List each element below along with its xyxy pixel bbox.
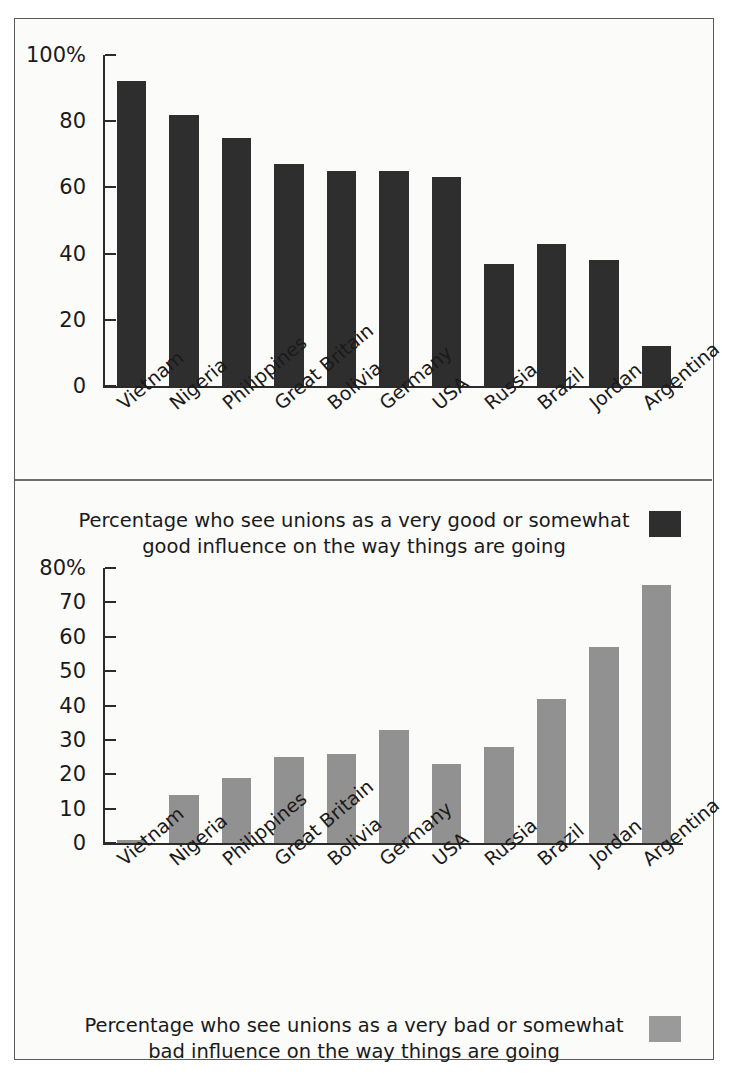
caption-good: Percentage who see unions as a very good… <box>71 508 637 559</box>
y-tick-label: 60 <box>59 625 86 649</box>
caption-bad-line2: bad influence on the way things are goin… <box>71 1039 637 1065</box>
y-tick-label: 20 <box>59 762 86 786</box>
bar <box>379 171 408 386</box>
y-tick-label: 0 <box>73 374 86 398</box>
bar <box>117 81 146 386</box>
y-tick-label: 80% <box>39 556 86 580</box>
y-tick-label: 60 <box>59 175 86 199</box>
y-tick-label: 80 <box>59 109 86 133</box>
y-tick-label: 0 <box>73 831 86 855</box>
y-tick-label: 50 <box>59 659 86 683</box>
caption-bad: Percentage who see unions as a very bad … <box>71 1013 637 1064</box>
legend-swatch-bad <box>649 1016 681 1042</box>
caption-good-line2: good influence on the way things are goi… <box>71 534 637 560</box>
bars-good <box>105 55 683 386</box>
legend-swatch-good <box>649 511 681 537</box>
bar <box>484 264 513 386</box>
bar <box>222 138 251 386</box>
y-tick-label: 40 <box>59 694 86 718</box>
section-divider <box>15 479 712 481</box>
y-tick-label: 70 <box>59 590 86 614</box>
bar <box>589 260 618 386</box>
bars-bad <box>105 568 683 843</box>
y-tick-label: 30 <box>59 728 86 752</box>
bar <box>537 699 566 843</box>
plot-area-good: 020406080100% <box>103 55 683 388</box>
caption-bad-line1: Percentage who see unions as a very bad … <box>71 1013 637 1039</box>
y-tick-label: 20 <box>59 308 86 332</box>
caption-good-line1: Percentage who see unions as a very good… <box>71 508 637 534</box>
bar <box>537 244 566 386</box>
plot-area-bad: 01020304050607080% <box>103 568 683 845</box>
figure-border: 020406080100% VietnamNigeriaPhilippinesG… <box>14 18 714 1060</box>
y-tick-label: 40 <box>59 242 86 266</box>
bar <box>589 647 618 843</box>
bar <box>642 585 671 843</box>
y-tick-label: 100% <box>26 43 86 67</box>
y-tick-label: 10 <box>59 797 86 821</box>
